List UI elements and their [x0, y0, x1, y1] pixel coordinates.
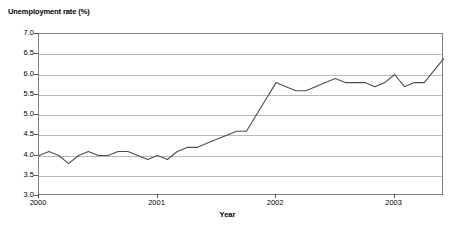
plot-area [38, 33, 443, 195]
x-axis-tick-label: 2000 [18, 199, 58, 207]
y-axis-tick-label: 4.0 [8, 151, 34, 159]
x-axis-tick-label: 2001 [137, 199, 177, 207]
y-axis-tick-label: 5.5 [8, 90, 34, 98]
data-series-line [39, 34, 444, 196]
y-axis-tick-label: 6.5 [8, 49, 34, 57]
unemployment-rate-line-chart: Unemployment rate (%) 7.06.56.05.55.04.5… [0, 0, 455, 227]
y-axis-tick-label: 4.5 [8, 130, 34, 138]
x-axis-tick-label: 2002 [255, 199, 295, 207]
x-axis-title: Year [0, 210, 455, 219]
y-axis-tick-label: 7.0 [8, 29, 34, 37]
y-axis-tick-label: 5.0 [8, 110, 34, 118]
y-axis-tick-label: 6.0 [8, 70, 34, 78]
x-axis-tick-label: 2003 [374, 199, 414, 207]
chart-title: Unemployment rate (%) [8, 7, 90, 16]
y-axis-tick-label: 3.5 [8, 171, 34, 179]
